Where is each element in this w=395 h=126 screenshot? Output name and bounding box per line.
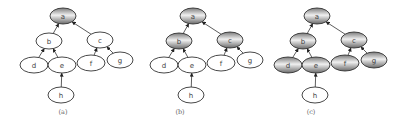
node-h: h xyxy=(302,87,328,103)
node-d: d xyxy=(20,57,48,73)
node-f: f xyxy=(77,55,105,71)
edge-f-to-c xyxy=(94,48,97,55)
node-f: f xyxy=(331,55,359,71)
node-label: d xyxy=(32,62,36,70)
node-label: g xyxy=(372,57,376,65)
node-h: h xyxy=(48,87,74,103)
panel-a: abcdefgh(a) xyxy=(20,8,133,116)
edge-e-to-b xyxy=(307,49,312,58)
node-g: g xyxy=(237,52,263,68)
edge-c-to-a xyxy=(202,22,221,34)
node-label: e xyxy=(60,62,64,70)
node-label: h xyxy=(189,92,193,100)
edge-d-to-b xyxy=(169,48,175,57)
panel-caption: (a) xyxy=(59,108,68,116)
node-a: a xyxy=(304,8,330,24)
node-g: g xyxy=(107,52,133,68)
edge-d-to-b xyxy=(39,48,45,57)
node-b: b xyxy=(166,33,192,49)
node-label: a xyxy=(315,13,319,21)
edge-b-to-a xyxy=(53,24,59,34)
node-label: d xyxy=(162,62,166,70)
edge-f-to-c xyxy=(224,48,227,55)
panels-container: abcdefgh(a)abcdefgh(b)abcdefgh(c) xyxy=(20,8,387,116)
edge-g-to-c xyxy=(237,47,243,53)
edge-b-to-a xyxy=(183,24,189,34)
node-d: d xyxy=(274,57,302,73)
panel-caption: (c) xyxy=(307,108,316,116)
edge-g-to-c xyxy=(107,47,113,53)
panel-b: abcdefgh(b) xyxy=(150,8,263,116)
edge-f-to-c xyxy=(348,48,351,55)
node-label: a xyxy=(191,13,195,21)
node-label: c xyxy=(352,37,356,45)
node-label: h xyxy=(313,92,317,100)
edge-c-to-a xyxy=(72,22,91,34)
edge-c-to-a xyxy=(326,22,345,34)
node-b: b xyxy=(36,33,62,49)
node-e: e xyxy=(178,57,206,73)
panel-caption: (b) xyxy=(175,108,185,116)
edge-b-to-a xyxy=(307,24,313,34)
node-a: a xyxy=(180,8,206,24)
node-g: g xyxy=(361,52,387,68)
node-label: e xyxy=(314,62,318,70)
panel-c: abcdefgh(c) xyxy=(274,8,387,116)
node-label: g xyxy=(248,57,252,65)
node-e: e xyxy=(48,57,76,73)
node-d: d xyxy=(150,57,178,73)
node-b: b xyxy=(290,33,316,49)
node-c: c xyxy=(87,32,113,48)
node-label: b xyxy=(47,38,52,46)
edge-e-to-b xyxy=(183,49,188,58)
edge-d-to-b xyxy=(293,48,299,57)
node-label: c xyxy=(98,37,102,45)
node-a: a xyxy=(50,8,76,24)
node-label: a xyxy=(61,13,65,21)
node-label: e xyxy=(190,62,194,70)
node-e: e xyxy=(302,57,330,73)
node-c: c xyxy=(217,32,243,48)
node-label: b xyxy=(301,38,306,46)
node-label: g xyxy=(118,57,122,65)
node-f: f xyxy=(207,55,235,71)
edge-g-to-c xyxy=(361,47,367,53)
node-label: c xyxy=(228,37,232,45)
tree-diagram-figure: abcdefgh(a)abcdefgh(b)abcdefgh(c) xyxy=(0,0,395,126)
node-h: h xyxy=(178,87,204,103)
node-c: c xyxy=(341,32,367,48)
node-label: d xyxy=(286,62,290,70)
node-label: h xyxy=(59,92,63,100)
node-label: b xyxy=(177,38,182,46)
edge-e-to-b xyxy=(53,49,58,58)
